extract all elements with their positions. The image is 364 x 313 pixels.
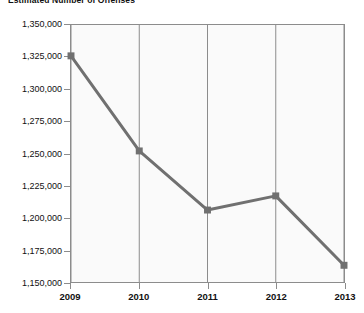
x-tick-mark <box>345 283 346 289</box>
x-tick-label: 2010 <box>128 292 149 302</box>
x-tick-label: 2013 <box>334 292 355 302</box>
data-point-marker <box>204 207 211 214</box>
x-tick-label: 2012 <box>266 292 287 302</box>
y-tick-label: 1,150,000 <box>0 279 62 288</box>
x-tick-mark <box>208 283 209 289</box>
data-point-marker <box>68 52 75 59</box>
y-tick-label: 1,350,000 <box>0 20 62 29</box>
y-tick-label: 1,200,000 <box>0 214 62 223</box>
data-series-offenses <box>71 25 344 282</box>
y-tick-label: 1,275,000 <box>0 117 62 126</box>
x-tick-label: 2009 <box>59 292 80 302</box>
y-tick-label: 1,225,000 <box>0 181 62 190</box>
x-tick-mark <box>276 283 277 289</box>
series-line <box>71 56 344 265</box>
x-tick-mark <box>70 283 71 289</box>
data-point-marker <box>341 262 348 269</box>
y-tick-label: 1,175,000 <box>0 246 62 255</box>
y-axis: 1,350,0001,325,0001,300,0001,275,0001,25… <box>0 0 62 313</box>
data-point-marker <box>272 192 279 199</box>
x-tick-mark <box>139 283 140 289</box>
plot-area <box>70 24 345 283</box>
y-tick-label: 1,300,000 <box>0 84 62 93</box>
y-tick-label: 1,250,000 <box>0 149 62 158</box>
data-point-marker <box>136 147 143 154</box>
y-tick-label: 1,325,000 <box>0 52 62 61</box>
x-tick-label: 2011 <box>197 292 218 302</box>
